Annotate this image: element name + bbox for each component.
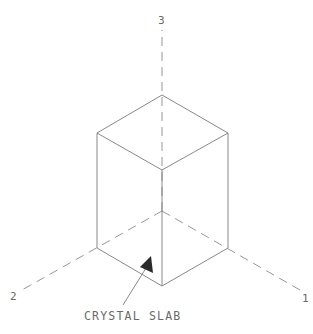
crystal-slab-prism [97,95,228,286]
callout-leader-line [123,268,146,305]
prism-top-face [97,95,228,170]
axis-1-label: 1 [302,292,309,305]
callout-arrow [123,256,153,305]
prism-bottom-right-edge [162,248,228,286]
diagram-canvas: 3 2 1 CRYSTAL SLAB [0,0,313,334]
arrowhead-icon [140,256,153,273]
axis-3-label: 3 [158,14,165,27]
axis-2-label: 2 [10,290,17,303]
callout-label: CRYSTAL SLAB [84,309,181,323]
axis-2-line [22,211,162,290]
axis-1-line [162,211,300,290]
